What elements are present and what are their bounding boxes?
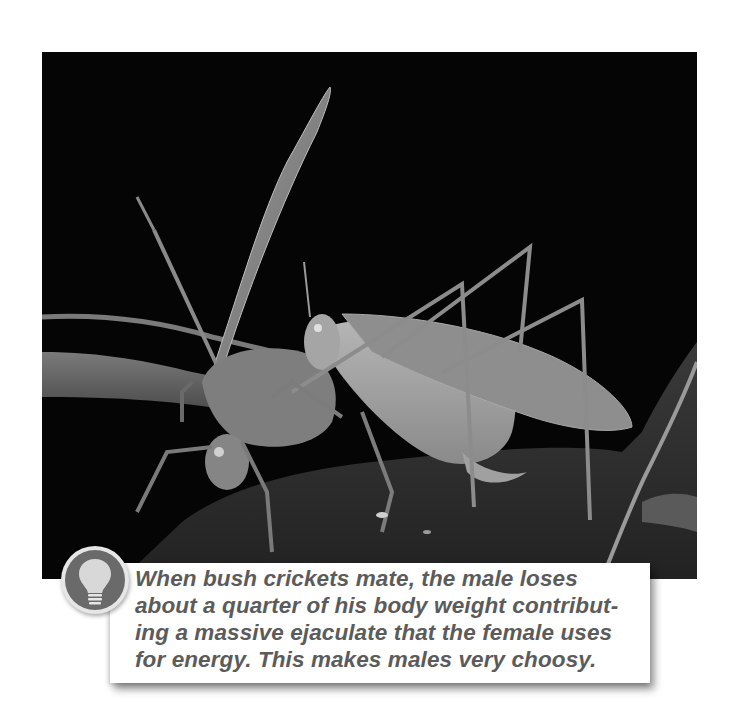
caption-line-3: ing a massive ejaculate that the female …	[135, 619, 645, 646]
caption-callout-box: When bush crickets mate, the male loses …	[110, 563, 650, 683]
lightbulb-icon	[61, 546, 129, 614]
caption-line-2: about a quarter of his body weight contr…	[135, 592, 645, 619]
caption-line-1: When bush crickets mate, the male loses	[135, 565, 645, 592]
caption-line-4: for energy. This makes males very choosy…	[135, 646, 645, 673]
caption-text: When bush crickets mate, the male loses …	[135, 565, 645, 673]
lightbulb-glyph-icon	[65, 550, 125, 610]
photo-bush-crickets-mating	[42, 52, 697, 579]
photo-illustration	[42, 52, 697, 579]
